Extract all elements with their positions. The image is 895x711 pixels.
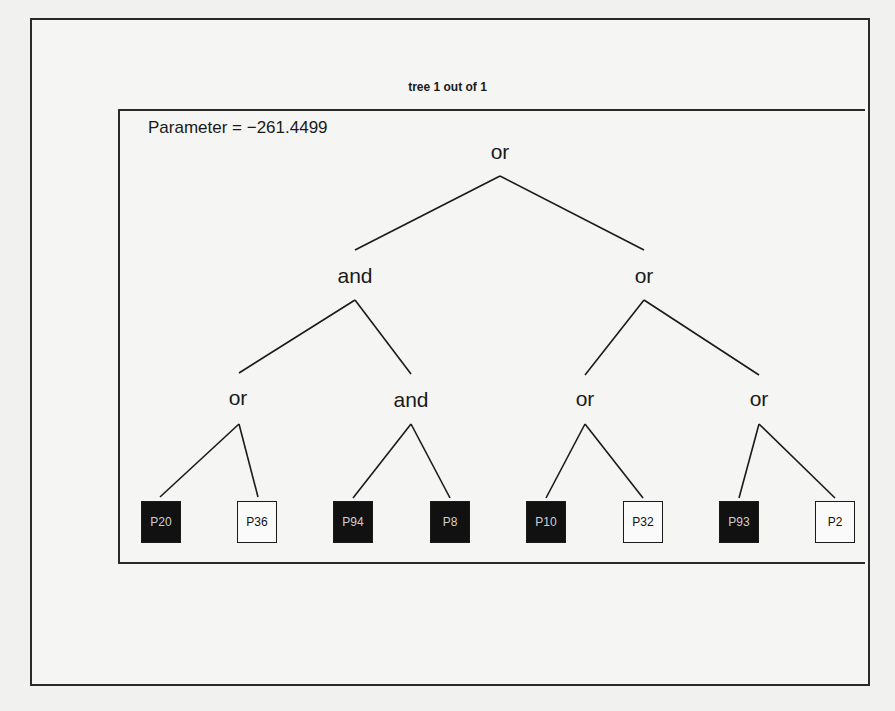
tree-edge bbox=[355, 300, 411, 374]
tree-edge bbox=[500, 176, 644, 250]
tree-edge bbox=[239, 424, 258, 497]
operator-node-and: and bbox=[337, 264, 372, 288]
tree-edge bbox=[759, 424, 835, 498]
tree-edges bbox=[0, 0, 895, 711]
tree-edge bbox=[160, 424, 239, 497]
leaf-node-p2: P2 bbox=[815, 501, 855, 543]
leaf-node-p32: P32 bbox=[623, 501, 663, 543]
leaf-node-p93: P93 bbox=[719, 501, 759, 543]
tree-edge bbox=[585, 424, 643, 498]
tree-edge bbox=[239, 300, 355, 373]
tree-edge bbox=[585, 300, 644, 375]
leaf-node-p10: P10 bbox=[526, 501, 566, 543]
tree-edge bbox=[644, 300, 759, 375]
operator-node-or: or bbox=[576, 387, 595, 411]
operator-node-or: or bbox=[491, 140, 510, 164]
tree-edge bbox=[546, 424, 585, 498]
operator-node-and: and bbox=[393, 388, 428, 412]
tree-edge bbox=[411, 424, 450, 498]
operator-node-or: or bbox=[229, 386, 248, 410]
tree-edge bbox=[353, 424, 411, 498]
tree-edge bbox=[739, 424, 759, 498]
operator-node-or: or bbox=[635, 264, 654, 288]
leaf-node-p94: P94 bbox=[333, 501, 373, 543]
leaf-node-p36: P36 bbox=[237, 501, 277, 543]
leaf-node-p8: P8 bbox=[430, 501, 470, 543]
leaf-node-p20: P20 bbox=[141, 501, 181, 543]
tree-edge bbox=[355, 176, 500, 250]
operator-node-or: or bbox=[750, 387, 769, 411]
